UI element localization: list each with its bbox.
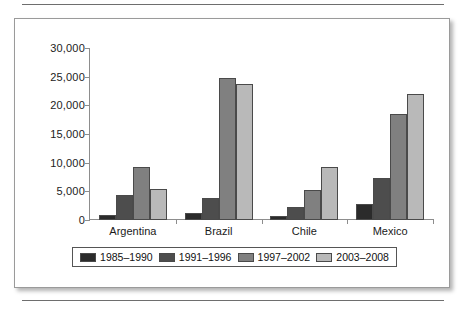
legend-item[interactable]: 1997–2002 <box>238 251 311 263</box>
bar-group <box>262 48 348 220</box>
x-axis-category-label: Mexico <box>373 225 408 237</box>
page-rule-top <box>22 4 444 5</box>
page-rule-bottom <box>22 300 444 301</box>
bar-group <box>176 48 262 220</box>
bar[interactable] <box>219 78 236 220</box>
y-axis-tick-label: 10,000 <box>50 157 85 169</box>
legend-label: 1997–2002 <box>258 251 311 263</box>
legend-swatch-icon <box>316 253 332 262</box>
bar[interactable] <box>390 114 407 220</box>
legend-item[interactable]: 2003–2008 <box>316 251 389 263</box>
plot-area: 05,00010,00015,00020,00025,00030,000 Arg… <box>15 19 451 289</box>
y-axis-tick-label: 20,000 <box>50 99 85 111</box>
x-axis-category-label: Brazil <box>205 225 233 237</box>
legend-label: 1985–1990 <box>100 251 153 263</box>
y-axis-tick-mark <box>85 220 90 221</box>
bar[interactable] <box>407 94 424 220</box>
bar[interactable] <box>321 167 338 220</box>
chart-figure-frame: 05,00010,00015,00020,00025,00030,000 Arg… <box>14 18 450 288</box>
y-axis-tick-label: 30,000 <box>50 42 85 54</box>
legend-item[interactable]: 1985–1990 <box>80 251 153 263</box>
x-axis-separator-tick <box>262 219 263 224</box>
x-axis-category-labels: ArgentinaBrazilChileMexico <box>90 225 433 243</box>
bar[interactable] <box>116 195 133 220</box>
bar[interactable] <box>99 215 116 220</box>
bar[interactable] <box>356 204 373 220</box>
bar[interactable] <box>304 190 321 220</box>
legend-swatch-icon <box>238 253 254 262</box>
y-axis-tick-label: 15,000 <box>50 128 85 140</box>
y-axis-labels: 05,00010,00015,00020,00025,00030,000 <box>23 41 85 221</box>
bar[interactable] <box>270 216 287 220</box>
x-axis-separator-tick <box>347 219 348 224</box>
x-axis-category-label: Chile <box>292 225 317 237</box>
y-axis-tick-label: 25,000 <box>50 71 85 83</box>
legend-swatch-icon <box>159 253 175 262</box>
bar[interactable] <box>185 213 202 220</box>
x-axis-separator-tick <box>176 219 177 224</box>
bar[interactable] <box>202 198 219 220</box>
bar[interactable] <box>150 189 167 220</box>
bar-group <box>90 48 176 220</box>
x-axis-separator-tick <box>433 219 434 224</box>
bar[interactable] <box>236 84 253 220</box>
bar[interactable] <box>287 207 304 220</box>
legend-label: 1991–1996 <box>179 251 232 263</box>
bar-group <box>347 48 433 220</box>
x-axis-category-label: Argentina <box>109 225 156 237</box>
y-axis-tick-label: 5,000 <box>56 185 85 197</box>
legend-label: 2003–2008 <box>336 251 389 263</box>
bar[interactable] <box>133 167 150 220</box>
legend-item[interactable]: 1991–1996 <box>159 251 232 263</box>
bar[interactable] <box>373 178 390 220</box>
chart-legend: 1985–19901991–19961997–20022003–2008 <box>72 247 397 267</box>
bars-container <box>90 48 433 220</box>
legend-swatch-icon <box>80 253 96 262</box>
